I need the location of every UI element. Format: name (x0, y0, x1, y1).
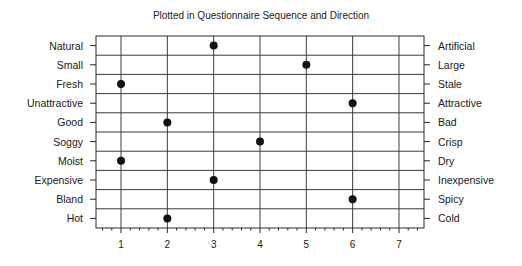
right-label: Spicy (438, 193, 464, 205)
left-label: Natural (49, 40, 83, 52)
right-label: Dry (438, 155, 455, 167)
data-point (302, 61, 310, 69)
chart-title: Plotted in Questionnaire Sequence and Di… (153, 10, 369, 21)
dot-chart: Plotted in Questionnaire Sequence and Di… (0, 0, 522, 266)
x-tick-label: 1 (118, 239, 124, 250)
left-label: Bland (56, 193, 83, 205)
right-label: Inexpensive (438, 174, 494, 186)
x-tick-label: 7 (396, 239, 402, 250)
data-point (210, 176, 218, 184)
right-label: Bad (438, 116, 457, 128)
left-label: Fresh (56, 78, 83, 90)
data-point (163, 118, 171, 126)
x-tick-label: 5 (304, 239, 310, 250)
right-axis-labels: ArtificialLargeStaleAttractiveBadCrispDr… (424, 40, 494, 225)
left-label: Small (57, 59, 83, 71)
right-label: Large (438, 59, 465, 71)
data-point (163, 214, 171, 222)
x-axis: 1234567 (102, 228, 417, 250)
x-tick-label: 2 (165, 239, 171, 250)
grid-lines (96, 36, 424, 228)
x-tick-label: 3 (211, 239, 217, 250)
right-label: Stale (438, 78, 462, 90)
right-label: Cold (438, 212, 460, 224)
data-point (256, 138, 264, 146)
x-tick-label: 6 (350, 239, 356, 250)
data-point (349, 99, 357, 107)
left-label: Expensive (35, 174, 84, 186)
data-point (210, 42, 218, 50)
right-label: Artificial (438, 40, 475, 52)
right-label: Attractive (438, 97, 482, 109)
left-label: Moist (58, 155, 83, 167)
data-point (349, 195, 357, 203)
left-label: Hot (67, 212, 83, 224)
left-label: Unattractive (27, 97, 83, 109)
right-label: Crisp (438, 136, 463, 148)
left-axis-labels: NaturalSmallFreshUnattractiveGoodSoggyMo… (27, 40, 96, 225)
left-label: Soggy (53, 136, 84, 148)
data-point (117, 157, 125, 165)
left-label: Good (57, 116, 83, 128)
data-point (117, 80, 125, 88)
x-tick-label: 4 (257, 239, 263, 250)
